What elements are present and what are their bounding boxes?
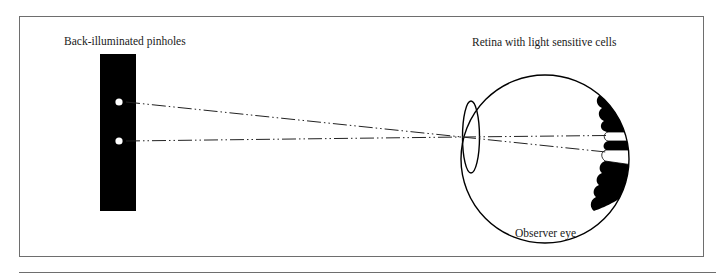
label-retina: Retina with light sensitive cells bbox=[472, 36, 616, 49]
retina-cell-stimulated-upper bbox=[604, 132, 640, 141]
light-rays bbox=[126, 102, 607, 152]
retina-cell-middle bbox=[604, 141, 640, 150]
ray-top-pinhole bbox=[126, 102, 462, 137]
ray-top-pinhole-inside-eye bbox=[462, 137, 606, 152]
label-observer-eye: Observer eye bbox=[515, 227, 576, 240]
retina-cells bbox=[591, 82, 640, 211]
retina-cell-cluster-upper bbox=[594, 82, 640, 132]
pinhole-top bbox=[115, 98, 122, 105]
label-back-illuminated-pinholes: Back-illuminated pinholes bbox=[64, 35, 186, 48]
pinhole-bottom bbox=[115, 137, 122, 144]
ray-bottom-pinhole bbox=[126, 137, 462, 141]
pinhole-plate bbox=[100, 54, 136, 211]
ray-bottom-pinhole-inside-eye bbox=[462, 136, 607, 138]
diagram-canvas: Back-illuminated pinholes Retina with li… bbox=[0, 0, 716, 277]
retina-cell-cluster-lower bbox=[591, 161, 640, 211]
